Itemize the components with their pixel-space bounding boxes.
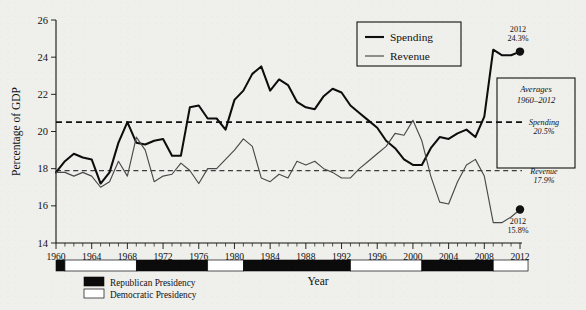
presidency-segment-republican bbox=[56, 260, 65, 271]
averages-box-title-line1: Averages bbox=[519, 84, 552, 94]
legend-label-revenue: Revenue bbox=[390, 50, 430, 62]
y-axis-title: Percentage of GDP bbox=[10, 87, 23, 176]
endpoint-marker-revenue bbox=[516, 205, 524, 213]
presidency-segment-republican bbox=[422, 260, 493, 271]
y-tick-label: 26 bbox=[38, 15, 49, 26]
endpoint-marker-spending bbox=[516, 47, 524, 55]
y-tick-label: 20 bbox=[38, 126, 49, 137]
y-tick-label: 22 bbox=[38, 89, 49, 100]
legend-label-spending: Spending bbox=[390, 31, 433, 43]
y-tick-label: 18 bbox=[38, 163, 49, 174]
gdp-spending-revenue-chart: 14161820222426Percentage of GDP196019641… bbox=[0, 0, 586, 310]
presidency-segment-democratic bbox=[350, 260, 421, 271]
averages-revenue-value: 17.9% bbox=[534, 176, 555, 185]
presidency-segment-republican bbox=[243, 260, 350, 271]
presidency-legend-swatch-republican bbox=[84, 277, 104, 286]
series-line-revenue bbox=[56, 120, 520, 222]
presidency-segment-democratic bbox=[493, 260, 528, 271]
x-axis-title: Year bbox=[307, 275, 328, 287]
presidency-legend-label-democratic: Democratic Presidency bbox=[110, 290, 197, 300]
y-tick-label: 24 bbox=[38, 52, 49, 63]
presidency-segment-democratic bbox=[208, 260, 244, 271]
presidency-legend-label-republican: Republican Presidency bbox=[110, 278, 196, 288]
endpoint-value-spending: 24.3% bbox=[507, 34, 528, 43]
series-line-spending bbox=[56, 50, 520, 184]
presidency-segment-republican bbox=[136, 260, 207, 271]
endpoint-year-revenue: 2012 bbox=[510, 217, 526, 226]
y-tick-label: 16 bbox=[38, 200, 49, 211]
presidency-segment-democratic bbox=[65, 260, 136, 271]
averages-revenue-label: Revenue bbox=[529, 167, 558, 176]
averages-box-title-line2: 1960–2012 bbox=[517, 95, 556, 105]
averages-spending-label: Spending bbox=[529, 118, 559, 127]
endpoint-year-spending: 2012 bbox=[510, 25, 526, 34]
endpoint-value-revenue: 15.8% bbox=[507, 226, 528, 235]
presidency-legend-swatch-democratic bbox=[84, 289, 104, 298]
averages-spending-value: 20.5% bbox=[534, 127, 555, 136]
y-tick-label: 14 bbox=[38, 238, 49, 249]
chart-figure: 14161820222426Percentage of GDP196019641… bbox=[0, 0, 586, 310]
